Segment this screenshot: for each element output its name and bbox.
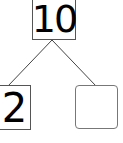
whole-value: 10 (32, 0, 76, 38)
part-value-left: 2 (2, 88, 27, 128)
whole-box: 10 (32, 0, 76, 40)
part-box-right-empty[interactable] (75, 85, 118, 129)
part-box-left: 2 (0, 85, 31, 130)
